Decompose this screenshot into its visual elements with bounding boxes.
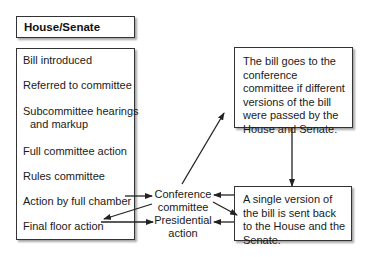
step-subcommittee-hearings: Subcommittee hearings and markup <box>23 105 139 131</box>
conference-explanation-text: The bill goes to the conference committe… <box>243 55 348 137</box>
single-version-box: A single version of the bill is sent bac… <box>234 186 352 241</box>
step-action-by-full-chamber: Action by full chamber <box>23 195 131 208</box>
step-rules-committee: Rules committee <box>23 170 105 183</box>
legislative-steps-box: Bill introduced Referred to committee Su… <box>16 48 135 240</box>
presidential-line1: Presidential <box>150 214 216 227</box>
step-subcommittee-line2: and markup <box>23 118 139 131</box>
step-full-committee-action: Full committee action <box>23 145 127 158</box>
house-senate-header-box: House/Senate <box>16 16 135 38</box>
presidential-line2: action <box>150 227 216 240</box>
conference-explanation-box: The bill goes to the conference committe… <box>234 47 353 128</box>
step-referred-to-committee: Referred to committee <box>23 79 132 92</box>
arrow-conference-to-explanation <box>182 113 224 184</box>
conference-line1: Conference <box>150 188 216 201</box>
step-bill-introduced: Bill introduced <box>23 54 92 67</box>
conference-line2: committee <box>150 201 216 214</box>
step-subcommittee-line1: Subcommittee hearings <box>23 105 139 117</box>
header-title: House/Senate <box>24 21 100 33</box>
presidential-action-node: Presidential action <box>150 214 216 240</box>
single-version-text: A single version of the bill is sent bac… <box>243 193 347 247</box>
step-final-floor-action: Final floor action <box>23 220 104 233</box>
conference-committee-node: Conference committee <box>150 188 216 214</box>
